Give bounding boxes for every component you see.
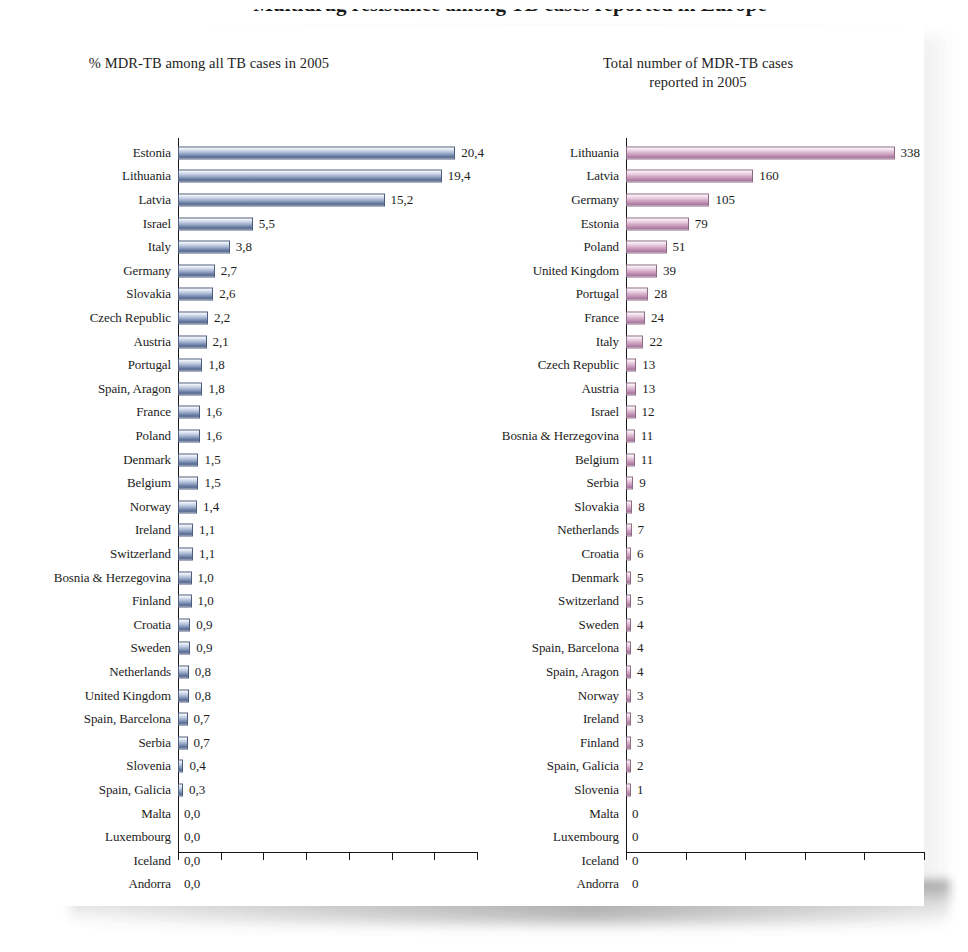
bar-value-label: 2,2 xyxy=(214,310,230,326)
category-label: Spain, Galicia xyxy=(99,782,171,798)
bar-row: France24 xyxy=(626,306,926,330)
category-label: Spain, Aragon xyxy=(98,381,171,397)
bar-value-label: 4 xyxy=(637,640,644,656)
category-label: Switzerland xyxy=(110,546,171,562)
category-label: Czech Republic xyxy=(90,310,171,326)
bar-value-label: 39 xyxy=(663,263,676,279)
category-label: Italy xyxy=(596,334,619,350)
bar xyxy=(626,194,709,207)
bar-row: Spain, Aragon1,8 xyxy=(178,377,478,401)
category-label: Portugal xyxy=(128,357,171,373)
category-label: Slovenia xyxy=(126,758,171,774)
category-label: Belgium xyxy=(575,452,619,468)
bar-value-label: 160 xyxy=(759,168,779,184)
bar-row: Slovenia0,4 xyxy=(178,755,478,779)
category-label: Finland xyxy=(132,593,171,609)
category-label: Lithuania xyxy=(122,168,171,184)
category-label: Andorra xyxy=(576,876,619,892)
bar xyxy=(626,359,636,372)
bar xyxy=(626,689,631,702)
category-label: Spain, Galicia xyxy=(547,758,619,774)
chart-title-total: Total number of MDR-TB cases reported in… xyxy=(498,54,898,92)
category-label: Austria xyxy=(133,334,171,350)
bar-value-label: 0,3 xyxy=(189,782,205,798)
bar-row: Bosnia & Herzegovina11 xyxy=(626,424,926,448)
category-label: Luxembourg xyxy=(105,829,171,845)
bar xyxy=(626,312,645,325)
bar xyxy=(626,146,895,159)
category-label: France xyxy=(584,310,619,326)
bar-row: Italy22 xyxy=(626,330,926,354)
category-label: Italy xyxy=(148,239,171,255)
bar-row: Sweden0,9 xyxy=(178,637,478,661)
bar-row: Slovakia8 xyxy=(626,495,926,519)
bar xyxy=(626,713,631,726)
bar xyxy=(178,524,193,537)
category-label: Spain, Barcelona xyxy=(532,640,619,656)
bar xyxy=(626,618,631,631)
bar-value-label: 2,1 xyxy=(213,334,229,350)
bar-row: Spain, Aragon4 xyxy=(626,660,926,684)
bar-row: Austria2,1 xyxy=(178,330,478,354)
bar-row: Norway3 xyxy=(626,684,926,708)
category-label: Sweden xyxy=(130,640,171,656)
bar-row: Croatia0,9 xyxy=(178,613,478,637)
x-axis-tick xyxy=(178,852,179,860)
bar-value-label: 0,0 xyxy=(184,876,200,892)
bar-value-label: 1,1 xyxy=(199,546,215,562)
category-label: Serbia xyxy=(586,475,619,491)
category-label: Denmark xyxy=(123,452,171,468)
bar-row: Spain, Barcelona0,7 xyxy=(178,707,478,731)
bar xyxy=(626,595,631,608)
category-label: Belgium xyxy=(127,475,171,491)
bar-row: Czech Republic13 xyxy=(626,353,926,377)
bar-value-label: 0,8 xyxy=(195,688,211,704)
category-label: Portugal xyxy=(576,286,619,302)
bar-value-label: 0,7 xyxy=(194,735,210,751)
bar xyxy=(178,477,198,490)
bar-row: Iceland0 xyxy=(626,849,926,873)
bar-row: Poland51 xyxy=(626,235,926,259)
bar-value-label: 22 xyxy=(649,334,662,350)
category-label: Estonia xyxy=(133,145,171,161)
bar-value-label: 1 xyxy=(637,782,644,798)
bar-value-label: 0,0 xyxy=(184,853,200,869)
bar-value-label: 0,9 xyxy=(196,617,212,633)
bar-row: Estonia79 xyxy=(626,212,926,236)
bar-value-label: 13 xyxy=(642,357,655,373)
bar xyxy=(178,642,190,655)
bar-value-label: 79 xyxy=(695,216,708,232)
bar-row: Finland1,0 xyxy=(178,589,478,613)
bar-value-label: 1,8 xyxy=(208,357,224,373)
bar-row: Croatia6 xyxy=(626,542,926,566)
bar-value-label: 1,5 xyxy=(204,475,220,491)
bar xyxy=(626,736,631,749)
bar-row: Norway1,4 xyxy=(178,495,478,519)
bar-row: Serbia0,7 xyxy=(178,731,478,755)
bar-value-label: 0 xyxy=(632,876,639,892)
chart-panel-percent-mdrtb: % MDR-TB among all TB cases in 2005 Esto… xyxy=(26,26,496,906)
category-label: Netherlands xyxy=(557,522,619,538)
bar xyxy=(178,359,202,372)
bar-value-label: 1,6 xyxy=(206,404,222,420)
bar-row: Andorra0 xyxy=(626,873,926,897)
bar xyxy=(178,571,192,584)
category-label: Estonia xyxy=(581,216,619,232)
bar-row: Germany2,7 xyxy=(178,259,478,283)
bar-value-label: 338 xyxy=(901,145,921,161)
bar-value-label: 13 xyxy=(642,381,655,397)
bar-value-label: 105 xyxy=(715,192,735,208)
x-axis-tick xyxy=(392,852,393,860)
category-label: Israel xyxy=(591,404,619,420)
bar-row: Germany105 xyxy=(626,188,926,212)
bar-row: Portugal28 xyxy=(626,283,926,307)
category-label: Austria xyxy=(581,381,619,397)
category-label: Ireland xyxy=(583,711,619,727)
category-label: Netherlands xyxy=(109,664,171,680)
bar-row: Malta0 xyxy=(626,802,926,826)
bar xyxy=(626,760,631,773)
clipped-figure-title: Multidrug resistance among TB cases repo… xyxy=(26,9,968,27)
bar-value-label: 7 xyxy=(638,522,645,538)
bar xyxy=(626,430,635,443)
bar-row: Lithuania338 xyxy=(626,141,926,165)
